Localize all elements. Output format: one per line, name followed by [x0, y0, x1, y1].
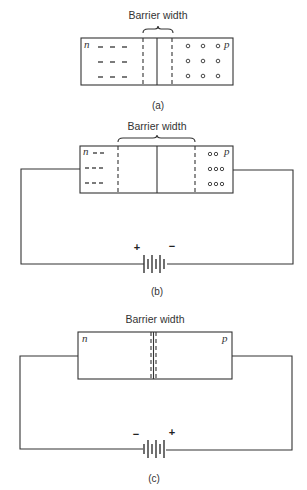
battery-b	[144, 255, 164, 273]
caption-a: (a)	[152, 100, 164, 111]
battery-minus-sign-c: −	[133, 428, 139, 440]
n-region-label-b: n	[83, 145, 89, 157]
battery-plus-sign-b: +	[134, 241, 140, 253]
caption-b: (b)	[151, 286, 163, 297]
p-region-label-c: p	[222, 332, 228, 344]
barrier-brace-b	[118, 135, 195, 142]
junction-c	[20, 332, 292, 458]
junction-b	[21, 135, 293, 273]
p-region-label-a: p	[224, 38, 230, 50]
junction-box-c	[78, 332, 232, 379]
battery-minus-sign-b: −	[169, 240, 175, 252]
electrons-a	[98, 47, 127, 77]
wire-right-b	[167, 170, 293, 264]
holes-b	[208, 152, 223, 185]
pn-junction-figure	[0, 0, 307, 490]
wire-left-b	[21, 169, 144, 264]
electrons-b	[85, 153, 104, 183]
barrier-width-label-c: Barrier width	[126, 313, 185, 325]
wire-left-c	[20, 356, 143, 449]
battery-c	[144, 440, 164, 458]
battery-plus-sign-c: +	[169, 426, 175, 438]
caption-c: (c)	[148, 473, 160, 484]
barrier-width-label-b: Barrier width	[128, 120, 187, 132]
p-region-label-b: p	[224, 145, 230, 157]
barrier-width-label-a: Barrier width	[129, 9, 188, 21]
barrier-brace-a	[143, 26, 173, 33]
junction-a	[81, 26, 233, 85]
n-region-label-c: n	[82, 332, 88, 344]
n-region-label-a: n	[84, 38, 90, 50]
wire-right-c	[166, 356, 292, 450]
holes-a	[186, 44, 220, 78]
